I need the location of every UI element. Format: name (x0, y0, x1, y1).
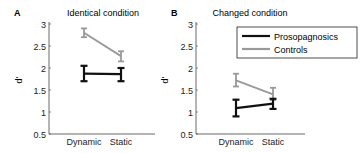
series-prosopagnosics (81, 66, 125, 81)
x-tick-label: Dynamic (66, 137, 102, 147)
y-tick-label: 1 (188, 108, 193, 118)
x-tick-label: Static (110, 137, 133, 147)
legend-label-prosopagnosics: Prosopagnosics (274, 32, 339, 42)
panel-a-plot (81, 28, 125, 81)
y-tick-label: 1 (41, 108, 46, 118)
y-tick-label: 1.5 (33, 86, 46, 96)
x-tick-label: Static (262, 137, 285, 147)
y-tick-label: 3 (188, 20, 193, 30)
y-tick-label: 2 (41, 64, 46, 74)
panel-a-title: Identical condition (67, 8, 139, 18)
y-tick-label: 0.5 (180, 130, 193, 140)
series-line (236, 80, 273, 94)
panel-b-label: B (171, 8, 178, 18)
panel-a-ylabel: d' (14, 76, 24, 83)
legend: Prosopagnosics Controls (237, 27, 357, 58)
y-tick-label: 3 (41, 20, 46, 30)
x-tick-label: Dynamic (218, 137, 254, 147)
series-controls (81, 28, 124, 61)
series-line (84, 33, 121, 56)
panel-b-title: Changed condition (212, 8, 287, 18)
panel-a-label: A (14, 8, 21, 18)
panel-a: A Identical condition d' 32.521.510.5Dyn… (14, 8, 155, 147)
panel-b: B Changed condition d' 32.521.510.5Dynam… (160, 8, 357, 147)
legend-label-controls: Controls (274, 45, 308, 55)
series-line (236, 104, 273, 108)
panel-b-ylabel: d' (160, 76, 170, 83)
y-tick-label: 2.5 (180, 42, 193, 52)
y-tick-label: 1.5 (180, 86, 193, 96)
panel-b-plot (233, 74, 277, 117)
y-tick-label: 2.5 (33, 42, 46, 52)
series-controls (233, 74, 276, 100)
figure: A Identical condition d' 32.521.510.5Dyn… (0, 0, 361, 153)
y-tick-label: 2 (188, 64, 193, 74)
y-tick-label: 0.5 (33, 130, 46, 140)
series-prosopagnosics (233, 99, 277, 117)
